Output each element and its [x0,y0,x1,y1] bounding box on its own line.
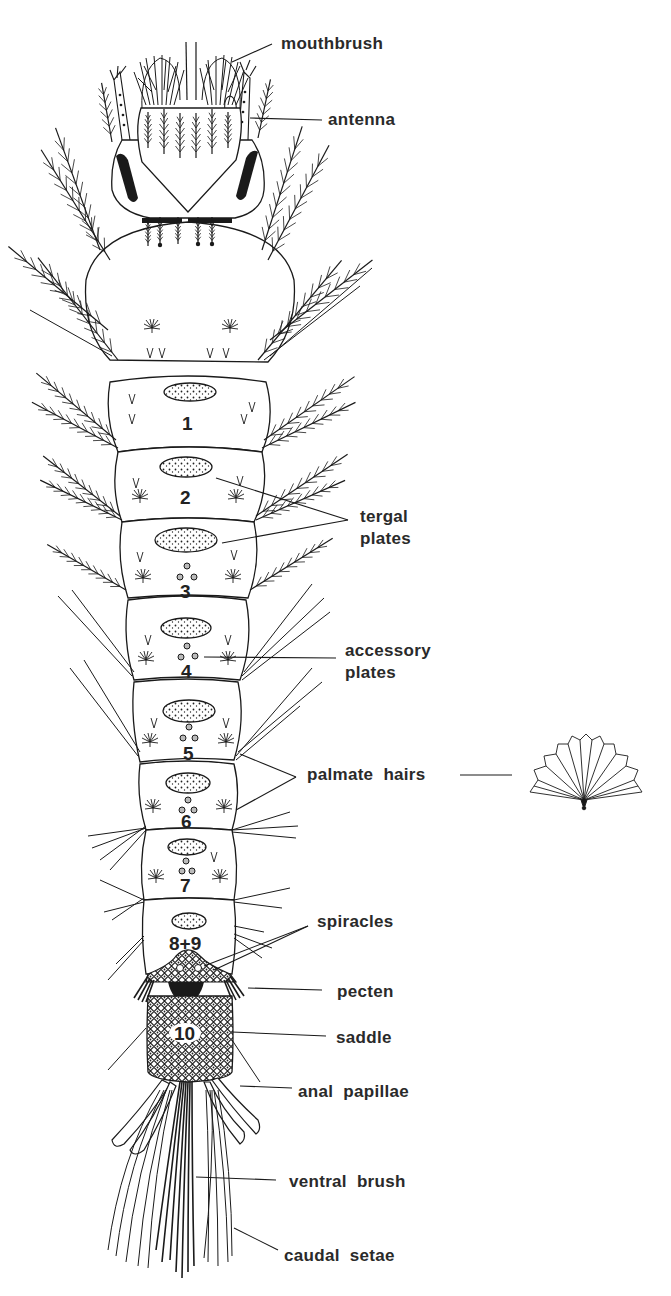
label-anal-papillae: anal papillae [298,1082,409,1102]
palmate-hair-detail [530,734,642,810]
svg-text:2: 2 [180,487,191,508]
svg-text:3: 3 [180,581,191,602]
terminal-segments: 10 [108,950,260,1278]
label-palmate-hairs: palmate hairs [307,765,426,785]
mouthbrush-left [134,55,184,110]
svg-text:1: 1 [182,413,193,434]
svg-text:4: 4 [181,661,192,682]
label-pecten: pecten [337,982,394,1002]
svg-text:10: 10 [174,1023,195,1044]
label-antenna: antenna [328,110,395,130]
svg-text:5: 5 [183,743,194,764]
label-tergal-plates: tergal plates [360,506,411,550]
label-caudal-setae: caudal setae [284,1246,395,1266]
label-accessory-plates: accessory plates [345,640,431,684]
head [96,42,277,223]
label-ventral-brush: ventral brush [289,1172,406,1192]
label-mouthbrush: mouthbrush [281,34,383,54]
label-saddle: saddle [336,1028,392,1048]
svg-text:7: 7 [180,875,191,896]
mosquito-larva-diagram: 1 2 3 4 5 6 7 8+9 10 [0,0,671,1296]
svg-text:6: 6 [181,811,192,832]
label-spiracles: spiracles [317,912,393,932]
